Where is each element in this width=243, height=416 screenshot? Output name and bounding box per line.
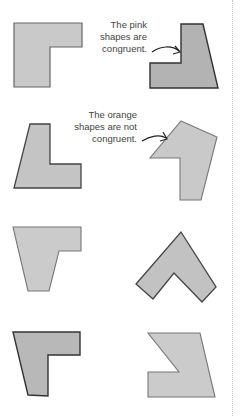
l-shape-7: [13, 332, 80, 396]
arrowhead-icon-congruent: [173, 46, 180, 54]
l-shape-6: [136, 232, 216, 302]
annotation-not-congruent: The orange shapes are not congruent.: [74, 109, 137, 145]
annotation-line: shapes are: [100, 31, 147, 43]
annotation-line: The orange: [74, 109, 137, 121]
l-shape-4: [150, 121, 217, 200]
l-shape-3: [14, 124, 81, 188]
l-shape-8: [148, 333, 215, 397]
annotation-line: congruent.: [100, 43, 147, 55]
annotation-line: shapes are not: [74, 121, 137, 133]
annotation-line: congruent.: [74, 133, 137, 145]
arrow-icon-congruent: [152, 47, 179, 52]
l-shape-2: [150, 24, 218, 88]
shapes-canvas: [0, 0, 243, 416]
annotation-line: The pink: [100, 19, 147, 31]
dotted-divider: [232, 0, 233, 416]
l-shape-5: [13, 227, 81, 291]
l-shape-1: [14, 23, 82, 87]
annotation-congruent: The pink shapes are congruent.: [100, 19, 147, 55]
